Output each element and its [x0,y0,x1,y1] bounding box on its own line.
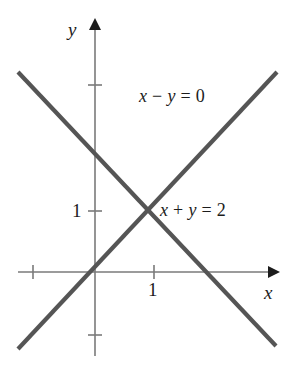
graph-figure: y x 1 1 x − y = 0 x + y = 2 [0,0,292,382]
y-axis-label: y [68,20,76,39]
eq-bot-var-x: x [160,200,168,220]
y-axis-arrow-icon [89,18,101,30]
equation-label-x-plus-y: x + y = 2 [160,201,226,219]
eq-top-operator: − [152,86,162,106]
eq-bot-equals: = [201,200,211,220]
coordinate-plot [0,0,292,382]
eq-bot-var-y: y [188,200,196,220]
x-axis-arrow-icon [268,266,280,278]
x-axis-tick-label-1: 1 [148,280,158,299]
equation-label-x-minus-y: x − y = 0 [139,87,205,105]
eq-bot-rhs: 2 [217,200,226,220]
y-axis-tick-label-1: 1 [72,201,82,220]
eq-top-var-x: x [139,86,147,106]
x-axis-label: x [264,283,272,302]
eq-bot-operator: + [173,200,183,220]
eq-top-rhs: 0 [196,86,205,106]
eq-top-var-y: y [167,86,175,106]
eq-top-equals: = [180,86,190,106]
